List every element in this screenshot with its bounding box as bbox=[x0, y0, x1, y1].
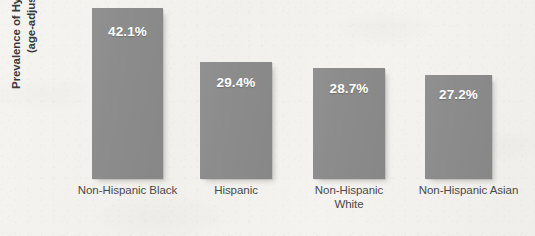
category-label-line1: Hispanic bbox=[214, 184, 258, 196]
bar-value-non-hispanic-black: 42.1% bbox=[92, 24, 163, 39]
bar-group-non-hispanic-asian: 27.2% bbox=[425, 75, 492, 179]
bar-chart: Prevalence of Hypertension (age-adjusted… bbox=[0, 0, 535, 236]
category-label-non-hispanic-black: Non-Hispanic Black bbox=[64, 184, 191, 198]
category-label-hispanic: Hispanic bbox=[190, 184, 282, 198]
bar-value-non-hispanic-asian: 27.2% bbox=[425, 87, 492, 102]
category-label-line1: Non-Hispanic bbox=[315, 184, 383, 196]
plot-area: 42.1% Non-Hispanic Black 29.4% Hispanic … bbox=[0, 0, 535, 236]
bar-group-hispanic: 29.4% bbox=[200, 62, 272, 179]
category-label-non-hispanic-white: Non-Hispanic White bbox=[296, 184, 402, 211]
bar-value-hispanic: 29.4% bbox=[200, 75, 272, 90]
category-label-line2: White bbox=[296, 198, 402, 212]
category-label-line1: Non-Hispanic Black bbox=[78, 184, 177, 196]
bar-value-non-hispanic-white: 28.7% bbox=[313, 81, 385, 96]
bar-group-non-hispanic-white: 28.7% bbox=[313, 68, 385, 179]
category-label-non-hispanic-asian: Non-Hispanic Asian bbox=[403, 184, 534, 198]
bar-group-non-hispanic-black: 42.1% bbox=[92, 8, 163, 179]
category-label-line1: Non-Hispanic Asian bbox=[419, 184, 518, 196]
